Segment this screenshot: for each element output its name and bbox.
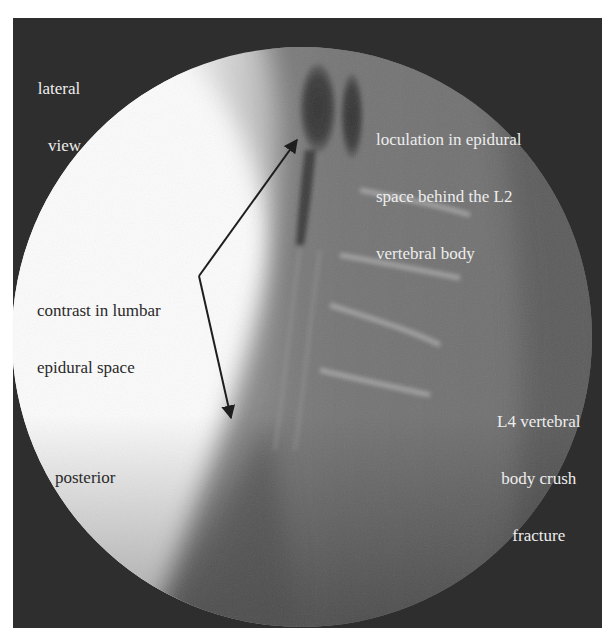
label-line: vertebral body — [376, 244, 521, 263]
label-posterior: posterior — [55, 430, 115, 506]
label-line: contrast in lumbar — [37, 301, 161, 320]
label-l4-fracture: L4 vertebral body crush fracture — [497, 374, 581, 564]
label-loculation: loculation in epidural space behind the … — [376, 92, 521, 282]
label-line: body crush — [497, 469, 581, 488]
label-line: view — [37, 136, 81, 155]
label-contrast-lumbar: contrast in lumbar epidural space — [37, 263, 161, 396]
label-line: loculation in epidural — [376, 130, 521, 149]
label-line: space behind the L2 — [376, 187, 521, 206]
label-line: L4 vertebral — [497, 412, 581, 431]
label-line: lateral — [37, 79, 81, 98]
label-line: fracture — [497, 526, 581, 545]
label-line: posterior — [55, 468, 115, 487]
label-line: epidural space — [37, 358, 161, 377]
label-lateral-view: lateral view — [37, 41, 81, 174]
